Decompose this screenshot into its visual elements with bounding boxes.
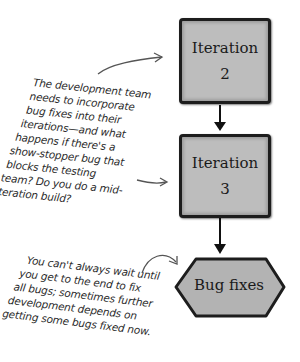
annotation-top: The development team needs to incorporat… — [1, 73, 152, 213]
bug-fixes-label: Bug fixes — [175, 276, 283, 294]
iteration-2-node: Iteration 2 — [179, 18, 271, 104]
annotation-arrow-top — [98, 57, 162, 74]
iteration-3-node: Iteration 3 — [179, 134, 271, 218]
